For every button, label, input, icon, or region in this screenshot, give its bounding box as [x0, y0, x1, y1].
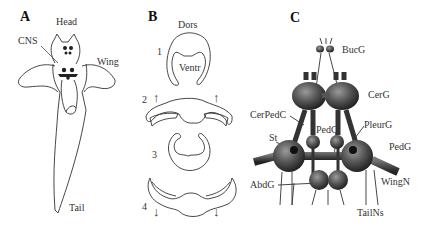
- buccal-ganglia-icon: [316, 46, 334, 53]
- abdominal-ganglia-icon: [309, 170, 348, 190]
- pleural-ganglia-icon: [306, 135, 344, 149]
- panel-c-drawing: [0, 0, 424, 233]
- figure: A Head CNS Wing Tail: [0, 0, 424, 233]
- cerebral-ganglia-icon: [292, 82, 359, 110]
